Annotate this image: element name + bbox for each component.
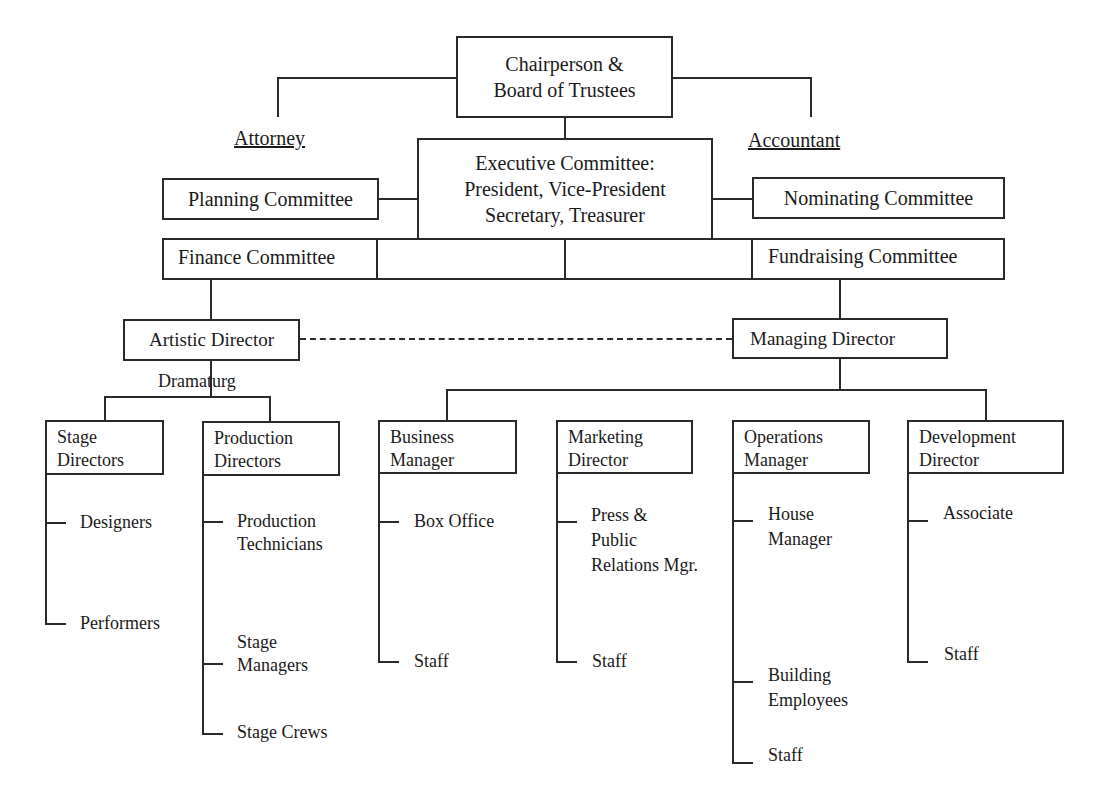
- tick-performers: [45, 623, 66, 625]
- accountant-label: Accountant: [748, 127, 840, 153]
- operations-manager-box: Operations Manager: [732, 420, 870, 474]
- staff-house-manager: House Manager: [768, 502, 832, 552]
- staff-designers: Designers: [80, 511, 152, 534]
- artistic-label: Artistic Director: [149, 328, 274, 352]
- tick-press-pr: [556, 521, 577, 523]
- nominating-committee-box: Nominating Committee: [752, 177, 1005, 219]
- production-directors-label: Production Directors: [214, 428, 293, 471]
- managing-label: Managing Director: [750, 328, 895, 349]
- staff-box-office: Box Office: [414, 510, 494, 533]
- executive-label: Executive Committee: President, Vice-Pre…: [464, 150, 666, 228]
- executive-committee-box: Executive Committee: President, Vice-Pre…: [417, 138, 713, 240]
- planning-committee-box: Planning Committee: [162, 178, 379, 220]
- tree-marketing-director: [556, 474, 558, 662]
- staff-performers: Performers: [80, 612, 160, 635]
- dashed-link-artistic-managing: [300, 338, 732, 340]
- staff-production-technicians: Production Technicians: [237, 510, 323, 556]
- nominating-label: Nominating Committee: [784, 185, 973, 211]
- staff-development-staff: Staff: [944, 643, 979, 666]
- staff-building-employees: Building Employees: [768, 663, 848, 713]
- tick-stage-managers: [202, 663, 223, 665]
- connector-managing-branch: [446, 389, 986, 391]
- tick-development-staff: [907, 661, 928, 663]
- connector-production-directors: [269, 396, 271, 421]
- connector-business: [446, 389, 448, 421]
- divider-center: [564, 238, 566, 280]
- tree-production-directors: [202, 475, 204, 734]
- development-director-label: Development Director: [919, 427, 1016, 470]
- connector-chair-attorney: [277, 77, 457, 79]
- stage-directors-box: Stage Directors: [45, 420, 164, 475]
- fundraising-committee-label: Fundraising Committee: [768, 243, 957, 269]
- staff-business-staff: Staff: [414, 650, 449, 673]
- staff-stage-crews: Stage Crews: [237, 721, 327, 744]
- tick-associate: [907, 520, 928, 522]
- connector-attorney-drop: [277, 77, 279, 117]
- tree-stage-directors: [45, 474, 47, 624]
- business-manager-box: Business Manager: [378, 420, 517, 474]
- tree-development-director: [907, 474, 909, 662]
- connector-artistic-branch: [104, 396, 270, 398]
- tree-operations-manager: [732, 474, 734, 763]
- dramaturg-label: Dramaturg: [158, 370, 236, 393]
- development-director-box: Development Director: [907, 420, 1064, 474]
- org-chart: Chairperson & Board of Trustees Attorney…: [0, 0, 1107, 799]
- tick-building-employees: [732, 681, 753, 683]
- planning-label: Planning Committee: [188, 186, 353, 212]
- tick-business-staff: [378, 661, 399, 663]
- tick-house-manager: [732, 520, 753, 522]
- tick-production-technicians: [202, 521, 223, 523]
- marketing-director-box: Marketing Director: [556, 420, 693, 474]
- tick-designers: [45, 522, 66, 524]
- connector-chair-exec: [564, 117, 566, 139]
- stage-directors-label: Stage Directors: [57, 427, 124, 470]
- tree-business-manager: [378, 474, 380, 662]
- connector-fundraising-managing: [839, 280, 841, 319]
- staff-associate: Associate: [943, 502, 1013, 525]
- connector-managing-drop: [839, 358, 841, 390]
- tick-operations-staff: [732, 762, 753, 764]
- managing-director-box: Managing Director: [732, 318, 948, 359]
- staff-operations-staff: Staff: [768, 744, 803, 767]
- finance-committee-label: Finance Committee: [178, 244, 335, 270]
- connector-finance-artistic: [210, 280, 212, 320]
- connector-development: [985, 389, 987, 421]
- tick-marketing-staff: [556, 661, 577, 663]
- staff-marketing-staff: Staff: [592, 650, 627, 673]
- chairperson-board-box: Chairperson & Board of Trustees: [456, 36, 673, 118]
- divider-fundraising: [751, 238, 753, 280]
- attorney-label: Attorney: [234, 125, 305, 151]
- staff-stage-managers: Stage Managers: [237, 631, 308, 677]
- tick-box-office: [378, 521, 399, 523]
- artistic-director-box: Artistic Director: [123, 319, 300, 361]
- staff-press-public-relations: Press & Public Relations Mgr.: [591, 503, 698, 578]
- chairperson-label: Chairperson & Board of Trustees: [493, 51, 635, 103]
- business-manager-label: Business Manager: [390, 427, 454, 470]
- tick-stage-crews: [202, 733, 223, 735]
- production-directors-box: Production Directors: [202, 421, 340, 476]
- marketing-director-label: Marketing Director: [568, 427, 643, 470]
- connector-exec-nominating: [711, 198, 753, 200]
- connector-chair-accountant: [671, 77, 811, 79]
- divider-finance: [376, 238, 378, 280]
- connector-exec-planning: [377, 198, 418, 200]
- connector-stage-directors: [104, 396, 106, 421]
- connector-accountant-drop: [810, 77, 812, 117]
- operations-manager-label: Operations Manager: [744, 427, 823, 470]
